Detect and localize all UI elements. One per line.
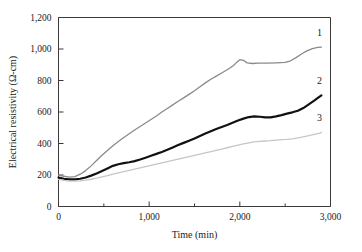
y-tick-label-0: 0: [47, 202, 52, 212]
x-tick-label-1000: 1,000: [138, 212, 160, 222]
series-end-labels: 123: [317, 27, 322, 123]
series-label-1: 1: [317, 27, 322, 38]
y-axis-tick-labels: 02004006008001,0001,200: [30, 13, 52, 212]
chart-canvas: 02004006008001,0001,200 01,0002,0003,000…: [0, 0, 362, 252]
x-axis-tick-labels: 01,0002,0003,000: [56, 212, 341, 222]
y-axis-title: Electrical resistivity (Ω-cm): [7, 56, 19, 168]
series-line-2: [59, 95, 322, 179]
x-tick-label-3000: 3,000: [320, 212, 342, 222]
x-axis-title: Time (min): [172, 229, 217, 241]
series-line-1: [59, 47, 322, 177]
y-tick-label-600: 600: [37, 107, 52, 117]
data-series-group: [59, 47, 322, 181]
y-tick-label-1200: 1,200: [30, 13, 52, 23]
y-tick-label-1000: 1,000: [30, 44, 52, 54]
series-label-2: 2: [317, 75, 322, 86]
series-label-3: 3: [317, 112, 322, 123]
y-tick-label-800: 800: [37, 76, 52, 86]
x-tick-label-2000: 2,000: [229, 212, 251, 222]
y-tick-label-200: 200: [37, 170, 52, 180]
x-tick-label-0: 0: [56, 212, 61, 222]
y-tick-label-400: 400: [37, 139, 52, 149]
chart-figure: 02004006008001,0001,200 01,0002,0003,000…: [0, 0, 362, 252]
x-axis-ticks: [59, 202, 331, 207]
